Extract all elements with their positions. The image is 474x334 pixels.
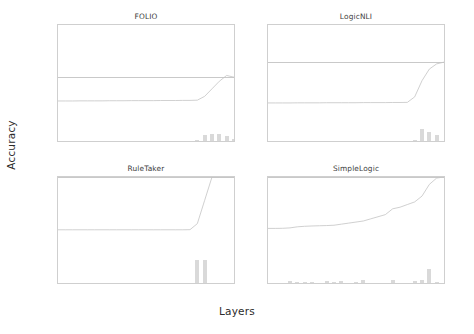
x-tick-mark xyxy=(319,283,320,284)
x-tick-mark xyxy=(297,283,298,284)
x-tick-mark xyxy=(131,141,132,142)
x-tick-mark xyxy=(116,141,117,142)
x-tick-mark xyxy=(297,141,298,142)
x-tick-mark xyxy=(414,141,415,142)
x-tick-mark xyxy=(168,283,169,284)
x-tick-mark xyxy=(326,283,327,284)
x-tick-mark xyxy=(94,283,95,284)
x-tick-mark xyxy=(356,141,357,142)
x-tick-mark xyxy=(444,141,445,142)
x-tick-mark xyxy=(109,283,110,284)
x-tick-mark xyxy=(275,141,276,142)
subplot-title: SimpleLogic xyxy=(267,164,445,173)
x-tick-mark xyxy=(204,283,205,284)
subplot-logicnli: LogicNLI xyxy=(267,24,445,142)
x-tick-mark xyxy=(363,283,364,284)
x-tick-mark xyxy=(334,141,335,142)
x-tick-mark xyxy=(348,283,349,284)
x-tick-mark xyxy=(407,283,408,284)
x-tick-mark xyxy=(429,283,430,284)
x-tick-mark xyxy=(212,141,213,142)
x-tick-mark xyxy=(160,141,161,142)
x-tick-mark xyxy=(65,141,66,142)
x-tick-mark xyxy=(219,283,220,284)
x-tick-mark xyxy=(234,283,235,284)
subplot-simplelogic: SimpleLogic 0123456789101112131415161718… xyxy=(267,176,445,284)
x-tick-mark xyxy=(268,283,269,284)
x-tick-mark xyxy=(312,283,313,284)
x-tick-mark xyxy=(146,141,147,142)
x-tick-mark xyxy=(175,141,176,142)
x-tick-mark xyxy=(370,141,371,142)
x-tick-mark xyxy=(319,141,320,142)
x-tick-mark xyxy=(444,283,445,284)
x-tick-mark xyxy=(290,283,291,284)
x-tick-mark xyxy=(356,283,357,284)
x-tick-mark xyxy=(392,141,393,142)
x-tick-mark xyxy=(212,283,213,284)
x-tick-mark xyxy=(87,283,88,284)
x-tick-mark xyxy=(226,141,227,142)
x-tick-mark xyxy=(109,141,110,142)
x-tick-mark xyxy=(326,141,327,142)
x-tick-mark xyxy=(94,141,95,142)
x-tick-mark xyxy=(348,141,349,142)
x-tick-mark xyxy=(378,141,379,142)
x-tick-mark xyxy=(392,283,393,284)
x-tick-mark xyxy=(429,141,430,142)
x-tick-mark xyxy=(197,283,198,284)
subplot-folio: FOLIO 0.020.040.060.080.0100.0 xyxy=(57,24,235,142)
x-tick-mark xyxy=(436,283,437,284)
x-tick-mark xyxy=(219,141,220,142)
x-tick-mark xyxy=(304,283,305,284)
x-tick-mark xyxy=(400,283,401,284)
subplot-title: LogicNLI xyxy=(267,12,445,21)
x-tick-mark xyxy=(334,283,335,284)
x-tick-mark xyxy=(197,141,198,142)
x-tick-mark xyxy=(72,141,73,142)
x-tick-mark xyxy=(385,141,386,142)
x-tick-mark xyxy=(378,283,379,284)
x-tick-mark xyxy=(282,283,283,284)
x-tick-mark xyxy=(190,283,191,284)
plot-area: 0.020.040.060.080.0100.0 xyxy=(57,24,235,142)
x-tick-mark xyxy=(304,141,305,142)
x-tick-mark xyxy=(131,283,132,284)
x-tick-mark xyxy=(80,283,81,284)
x-tick-mark xyxy=(160,283,161,284)
subplot-title: FOLIO xyxy=(57,12,235,21)
x-tick-mark xyxy=(65,283,66,284)
plot-area: 0.020.040.060.080.0100.00123456789101112… xyxy=(57,176,235,284)
x-tick-mark xyxy=(341,141,342,142)
x-tick-mark xyxy=(102,141,103,142)
x-tick-mark xyxy=(436,141,437,142)
x-axis-label: Layers xyxy=(0,305,474,317)
x-tick-mark xyxy=(385,283,386,284)
series-line xyxy=(58,25,234,141)
x-tick-mark xyxy=(138,283,139,284)
x-tick-mark xyxy=(190,141,191,142)
y-axis-label: Accuracy xyxy=(2,0,20,290)
x-tick-mark xyxy=(341,283,342,284)
x-tick-mark xyxy=(370,283,371,284)
series-line xyxy=(268,25,444,141)
x-tick-mark xyxy=(363,141,364,142)
series-line xyxy=(268,177,444,283)
x-tick-mark xyxy=(312,141,313,142)
plot-area xyxy=(267,24,445,142)
x-tick-mark xyxy=(153,283,154,284)
x-tick-mark xyxy=(407,141,408,142)
x-tick-mark xyxy=(234,141,235,142)
x-tick-mark xyxy=(422,141,423,142)
subplot-title: RuleTaker xyxy=(57,164,235,173)
x-tick-mark xyxy=(87,141,88,142)
x-tick-mark xyxy=(182,283,183,284)
figure-canvas: Accuracy Layers FOLIO 0.020.040.060.080.… xyxy=(0,0,474,334)
x-tick-mark xyxy=(58,283,59,284)
x-tick-mark xyxy=(80,141,81,142)
x-tick-mark xyxy=(275,283,276,284)
x-tick-mark xyxy=(268,141,269,142)
x-tick-mark xyxy=(153,141,154,142)
subplot-ruletaker: RuleTaker 0.020.040.060.080.0100.0012345… xyxy=(57,176,235,284)
x-tick-mark xyxy=(124,283,125,284)
